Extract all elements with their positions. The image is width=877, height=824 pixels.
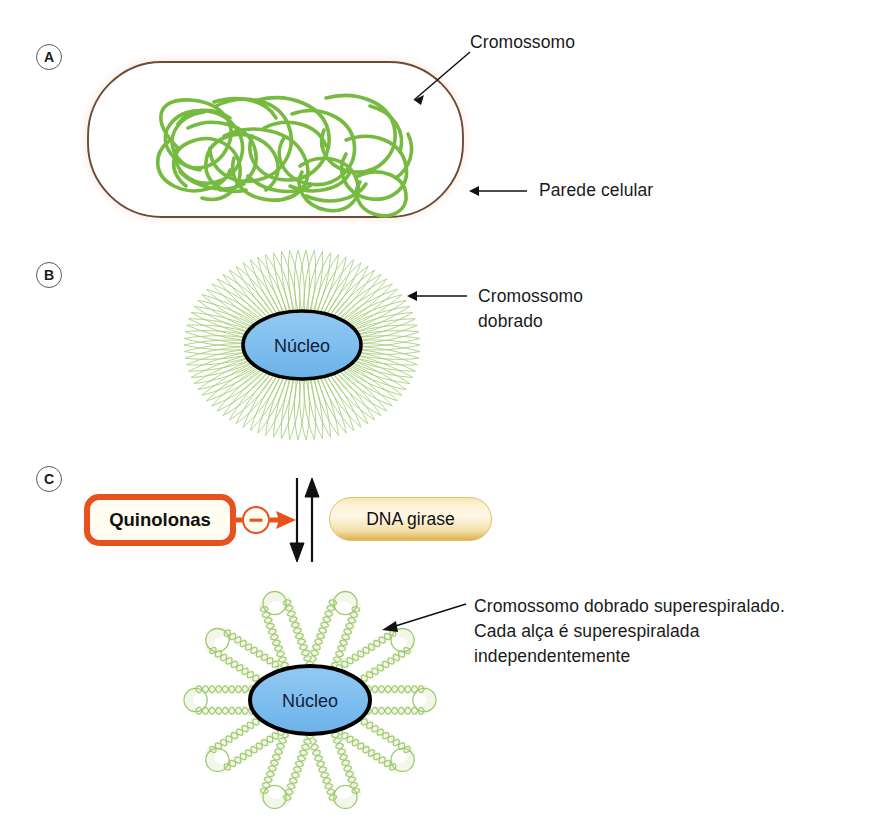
folded-chromosome-loops (184, 250, 420, 440)
figure-root: A B C Cromossomo Parede celular Cromosso… (0, 0, 877, 824)
panel-badge-c: C (36, 466, 62, 492)
diagram-artwork (0, 0, 877, 824)
label-supercoiled-note: Cromossomo dobrado superespiralado. Cada… (474, 594, 785, 669)
chromosome-tangle (158, 96, 412, 216)
nucleus-b (243, 311, 361, 379)
equilibrium-arrows (290, 478, 319, 562)
quinolonas-box[interactable]: Quinolonas (84, 494, 236, 546)
panel-a-cell (84, 58, 467, 221)
panel-b-leader (407, 291, 467, 301)
label-chromosome: Cromossomo (470, 30, 575, 55)
nucleus-label-b: Núcleo (274, 336, 330, 357)
nucleus-label-c: Núcleo (282, 691, 338, 712)
nucleus-c (250, 666, 370, 734)
quinolonas-label: Quinolonas (109, 509, 211, 531)
panel-a-leaders (414, 52, 527, 196)
panel-badge-a: A (36, 44, 62, 70)
supercoiled-loops (184, 592, 436, 809)
label-cell-wall: Parede celular (539, 178, 653, 203)
dna-girase-label: DNA girase (366, 509, 455, 530)
panel-c-leader (382, 604, 466, 632)
dna-girase-box[interactable]: DNA girase (329, 497, 492, 541)
panel-badge-b: B (36, 262, 62, 288)
inhibition-minus-icon (242, 506, 270, 534)
label-folded-chromosome: Cromossomo dobrado (478, 284, 583, 334)
